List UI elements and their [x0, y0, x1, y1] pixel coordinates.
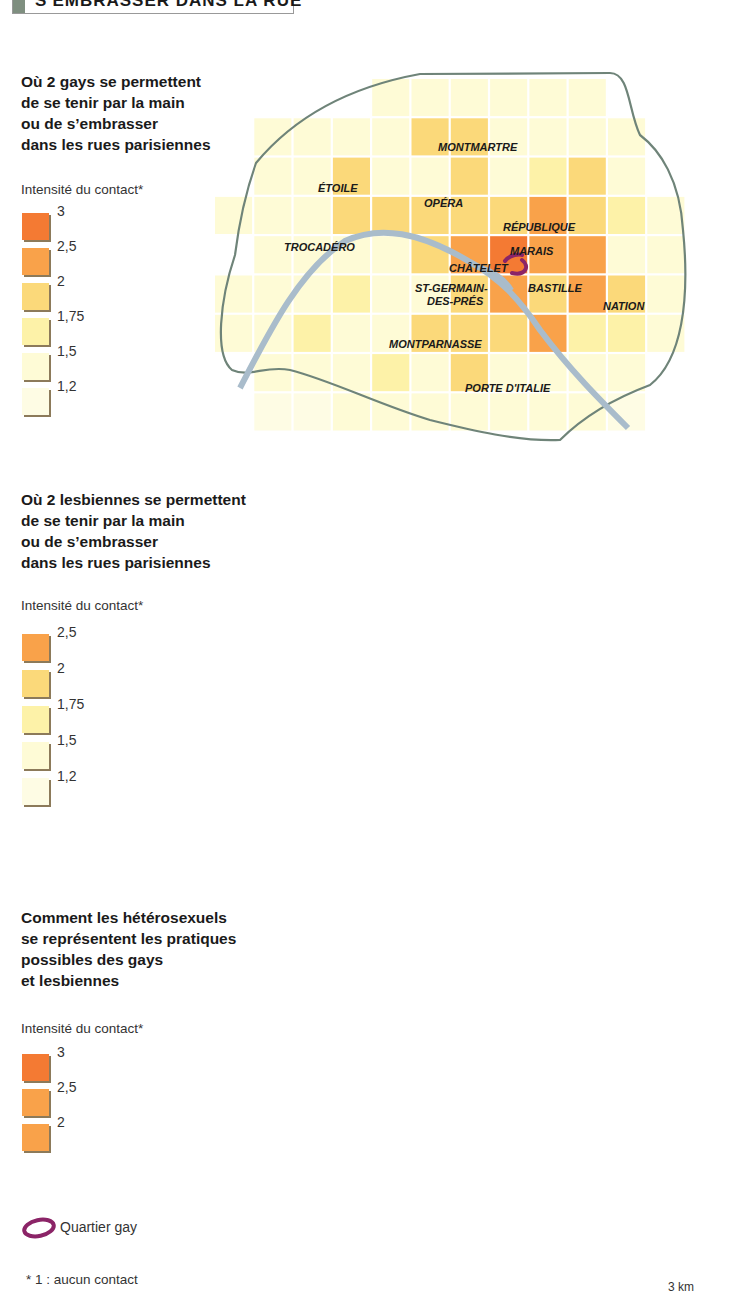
legend-label: 1,2 [57, 768, 76, 784]
legend-label: 1,5 [57, 732, 76, 748]
legend-item: 3 [22, 1054, 50, 1082]
legend-label: 2,5 [57, 1079, 76, 1095]
legend-swatch [22, 1054, 49, 1081]
legend-item: 1,5 [22, 742, 50, 770]
map-title: Comment les hétérosexuels se représenten… [21, 907, 281, 991]
scale-label: 3 km [668, 1280, 694, 1293]
title-line: et lesbiennes [21, 970, 281, 991]
title-line: se représentent les pratiques [21, 928, 281, 949]
legend-heading: Intensité du contact* [21, 1021, 143, 1036]
legend-item: 2 [22, 1124, 50, 1152]
legend-swatch [22, 670, 49, 697]
legend-swatch [22, 706, 49, 733]
title-line: Où 2 lesbiennes se permettent [21, 489, 281, 510]
map-title: Où 2 lesbiennes se permettent de se teni… [21, 489, 281, 573]
footnote: * 1 : aucun contact [26, 1272, 138, 1287]
legend-item: 1,75 [22, 706, 50, 734]
title-line: possibles des gays [21, 949, 281, 970]
legend-item: 2 [22, 670, 50, 698]
title-line: de se tenir par la main [21, 510, 281, 531]
legend-label: 2 [57, 660, 65, 676]
legend-label: 3 [57, 1044, 65, 1060]
gay-quarter-ellipse-icon [22, 1216, 58, 1240]
legend-swatch [22, 778, 49, 805]
legend-swatch [22, 1089, 49, 1116]
legend-item: 2,5 [22, 1089, 50, 1117]
legend-label: 2 [57, 1114, 65, 1130]
paris-heatmap [0, 0, 747, 380]
legend-item: 2,5 [22, 634, 50, 662]
title-line: ou de s’embrasser [21, 531, 281, 552]
legend-heading: Intensité du contact* [21, 598, 143, 613]
legend-label: 1,75 [57, 696, 84, 712]
legend-swatch [22, 1124, 49, 1151]
title-line: Comment les hétérosexuels [21, 907, 281, 928]
gay-quarter-label: Quartier gay [60, 1219, 137, 1235]
legend-swatch [22, 742, 49, 769]
legend-swatch [22, 634, 49, 661]
legend-label: 2,5 [57, 624, 76, 640]
title-line: dans les rues parisiennes [21, 552, 281, 573]
legend-item: 1,2 [22, 778, 50, 806]
